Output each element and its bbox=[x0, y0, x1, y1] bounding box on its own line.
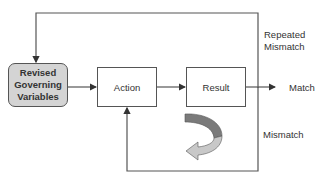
mismatch-label: Mismatch bbox=[263, 129, 304, 141]
repeated-mismatch-label: Repeated Mismatch bbox=[264, 29, 305, 53]
governing-line-1: Revised bbox=[14, 67, 62, 79]
result-label: Result bbox=[203, 82, 230, 93]
governing-line-2: Governing bbox=[14, 79, 62, 91]
action-node: Action bbox=[97, 67, 157, 107]
repeated-mismatch-line-1: Repeated bbox=[264, 29, 305, 41]
repeated-mismatch-line-2: Mismatch bbox=[264, 41, 305, 53]
result-node: Result bbox=[186, 67, 246, 107]
curved-arrow-icon bbox=[185, 114, 222, 160]
governing-line-3: Variables bbox=[14, 91, 62, 103]
action-label: Action bbox=[114, 82, 140, 93]
match-label: Match bbox=[289, 82, 315, 94]
revised-governing-variables-node: Revised Governing Variables bbox=[8, 63, 68, 107]
